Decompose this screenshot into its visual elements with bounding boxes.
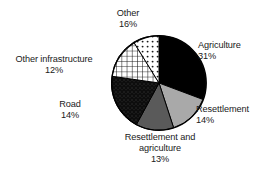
pie-label-other-value: 16% bbox=[93, 19, 163, 30]
pie-chart-figure: Other 16% Agriculture 31% Resettlement 1… bbox=[0, 0, 270, 176]
pie-label-resagri-line2: agriculture bbox=[108, 143, 212, 154]
pie-label-agriculture: Agriculture 31% bbox=[198, 40, 270, 62]
pie-label-road-value: 14% bbox=[48, 110, 92, 121]
pie-label-resettlement-name: Resettlement bbox=[196, 104, 249, 114]
pie-label-resettlement-value: 14% bbox=[196, 115, 270, 126]
pie-label-road-name: Road bbox=[59, 99, 81, 109]
pie-label-agriculture-value: 31% bbox=[198, 51, 270, 62]
pie-label-other-name: Other bbox=[117, 8, 139, 18]
pie-chart-graphic bbox=[111, 35, 207, 131]
pie-label-other-infrastructure-value: 12% bbox=[2, 65, 106, 76]
pie-label-resagri-line1: Resettlement and bbox=[125, 132, 195, 142]
pie-label-other: Other 16% bbox=[93, 8, 163, 30]
pie-label-resettlement: Resettlement 14% bbox=[196, 104, 270, 126]
pie-label-resettlement-and-agriculture: Resettlement and agriculture 13% bbox=[108, 132, 212, 166]
pie-label-road: Road 14% bbox=[48, 99, 92, 121]
pie-label-other-infrastructure-name: Other infrastructure bbox=[15, 54, 92, 64]
pie-label-resagri-value: 13% bbox=[108, 154, 212, 165]
pie-label-agriculture-name: Agriculture bbox=[198, 40, 241, 50]
pie-label-other-infrastructure: Other infrastructure 12% bbox=[2, 54, 106, 76]
pie-svg bbox=[111, 35, 207, 131]
